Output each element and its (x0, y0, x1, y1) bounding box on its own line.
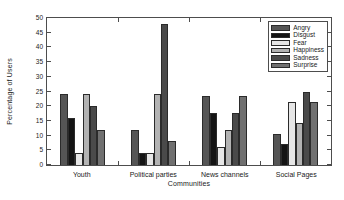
legend-swatch-fear (271, 40, 290, 46)
legend-item-happiness[interactable]: Happiness (271, 47, 324, 55)
legend-label-disgust: Disgust (293, 32, 315, 39)
bar-surprise-youth (97, 130, 104, 165)
y-axis-tick-label: 5 (39, 147, 43, 154)
plot-area: 05101520253035404550 AngryDisgustFearHap… (46, 17, 332, 166)
bar-sadness-social-pages (303, 92, 310, 166)
legend-swatch-surprise (271, 63, 290, 69)
y-axis-tick-label: 25 (36, 88, 43, 95)
y-axis-tick-label: 20 (36, 103, 43, 110)
bar-disgust-political-parties (139, 153, 146, 165)
bar-angry-social-pages (273, 134, 280, 165)
bar-disgust-social-pages (281, 144, 288, 165)
y-axis-title-label: Percentage of Users (6, 58, 13, 125)
bar-angry-news-channels (202, 96, 209, 165)
bar-angry-political-parties (131, 130, 138, 165)
bar-surprise-social-pages (310, 102, 317, 165)
bar-sadness-youth (90, 106, 97, 165)
bar-fear-political-parties (146, 153, 153, 165)
y-axis-tick-label: 10 (36, 132, 43, 139)
y-axis-tick-label: 50 (36, 15, 43, 22)
bar-surprise-political-parties (168, 141, 175, 165)
x-axis-tick (189, 161, 190, 165)
x-axis-tick (118, 161, 119, 165)
bar-happiness-political-parties (154, 94, 161, 165)
bar-fear-news-channels (217, 147, 224, 165)
legend-label-surprise: Surprise (293, 62, 317, 69)
bar-disgust-news-channels (210, 113, 217, 165)
bar-happiness-social-pages (296, 123, 303, 165)
legend-swatch-disgust (271, 33, 290, 39)
legend-label-happiness: Happiness (293, 47, 324, 54)
x-axis-tick (260, 161, 261, 165)
bar-angry-youth (60, 94, 67, 165)
bar-group (47, 18, 118, 165)
bar-group (189, 18, 260, 165)
y-axis-tick-label: 35 (36, 59, 43, 66)
chart-figure: Percentage of Users 05101520253035404550… (0, 0, 344, 200)
y-axis-tick-label: 40 (36, 44, 43, 51)
y-axis-title: Percentage of Users (4, 17, 15, 166)
bar-sadness-political-parties (161, 24, 168, 165)
y-axis-tick-label: 15 (36, 118, 43, 125)
bar-happiness-news-channels (225, 130, 232, 165)
legend-item-disgust[interactable]: Disgust (271, 32, 324, 40)
y-axis-tick-label: 30 (36, 74, 43, 81)
chart-legend: AngryDisgustFearHappinessSadnessSurprise (268, 21, 328, 72)
legend-swatch-angry (271, 25, 290, 31)
x-axis-title: Communities (46, 180, 332, 187)
bar-sadness-news-channels (232, 113, 239, 165)
bar-surprise-news-channels (239, 96, 246, 165)
bar-happiness-youth (83, 94, 90, 165)
bar-fear-youth (75, 153, 82, 165)
y-axis-tick-label: 45 (36, 29, 43, 36)
legend-item-surprise[interactable]: Surprise (271, 62, 324, 70)
x-axis-tick (260, 18, 261, 22)
x-axis-tick (189, 18, 190, 22)
y-axis-tick-label: 0 (39, 162, 43, 169)
bar-disgust-youth (68, 118, 75, 165)
legend-swatch-happiness (271, 48, 290, 54)
x-axis-tick (118, 18, 119, 22)
bar-group (118, 18, 189, 165)
bar-fear-social-pages (288, 102, 295, 165)
legend-swatch-sadness (271, 55, 290, 61)
